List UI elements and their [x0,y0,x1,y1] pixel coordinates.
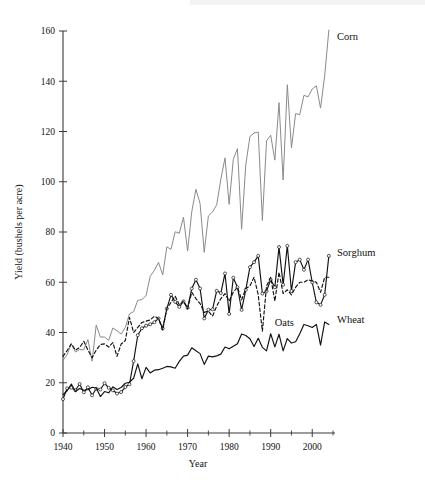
series-marker-sorghum [199,287,202,290]
y-tick-label: 60 [46,278,56,288]
series-marker-sorghum [257,254,260,257]
series-label-sorghum: Sorghum [337,247,375,258]
series-marker-sorghum [232,276,235,279]
series-marker-sorghum [86,386,89,389]
series-line-oats [63,272,329,357]
series-marker-sorghum [145,324,148,327]
series-marker-sorghum [307,258,310,261]
series-marker-sorghum [132,360,135,363]
series-label-corn: Corn [337,31,359,42]
series-marker-sorghum [78,383,81,386]
series-marker-sorghum [224,272,227,275]
y-tick-label: 40 [46,328,56,338]
axis-titles-layer: YearYield (bushels per acre) [13,184,208,469]
series-marker-sorghum [248,266,251,269]
y-tick-label: 120 [41,127,56,137]
series-marker-sorghum [294,261,297,264]
series-marker-sorghum [62,398,65,401]
series-marker-sorghum [219,292,222,295]
x-tick-label: 1980 [220,442,239,452]
series-marker-sorghum [298,258,301,261]
axes-layer: 0204060801001201401601940195019601970198… [41,26,335,452]
series-marker-sorghum [323,293,326,296]
series-marker-sorghum [120,391,123,394]
y-tick-label: 100 [41,177,56,187]
series-marker-sorghum [153,321,156,324]
series-marker-sorghum [124,386,127,389]
series-marker-sorghum [278,246,281,249]
x-axis-title: Year [189,458,208,469]
series-marker-sorghum [194,278,197,281]
series-marker-sorghum [203,317,206,320]
series-marker-sorghum [116,392,119,395]
series-marker-sorghum [140,327,143,330]
series-marker-sorghum [136,334,139,337]
x-tick-label: 1990 [261,442,280,452]
y-tick-label: 160 [41,26,56,36]
series-marker-sorghum [82,391,85,394]
series-marker-sorghum [228,312,231,315]
series-label-oats: Oats [275,317,294,328]
series-line-corn [63,30,329,361]
series-marker-sorghum [211,308,214,311]
y-axis-title: Yield (bushels per acre) [13,184,25,279]
y-tick-label: 140 [41,77,56,87]
series-marker-sorghum [261,292,264,295]
series-marker-sorghum [240,308,243,311]
series-marker-sorghum [107,386,110,389]
series-marker-sorghum [286,244,289,247]
yield-line-chart: 0204060801001201401601940195019601970198… [0,0,425,486]
y-tick-label: 20 [46,378,56,388]
series-marker-sorghum [149,323,152,326]
series-marker-sorghum [319,303,322,306]
x-tick-label: 1950 [95,442,114,452]
x-tick-label: 2000 [303,442,322,452]
series-label-wheat: Wheat [337,314,364,325]
series-layer [62,30,331,401]
series-marker-sorghum [215,289,218,292]
series-marker-sorghum [315,301,318,304]
series-marker-sorghum [99,388,102,391]
series-marker-sorghum [103,382,106,385]
x-tick-label: 1960 [137,442,156,452]
series-marker-sorghum [174,300,177,303]
series-marker-sorghum [91,394,94,397]
series-marker-sorghum [327,254,330,257]
x-tick-label: 1970 [178,442,197,452]
series-marker-sorghum [128,383,131,386]
chart-canvas: 0204060801001201401601940195019601970198… [0,0,425,486]
y-tick-label: 80 [46,227,56,237]
series-marker-sorghum [170,293,173,296]
series-marker-sorghum [178,305,181,308]
series-marker-sorghum [190,287,193,290]
y-tick-label: 0 [50,428,55,438]
series-marker-sorghum [273,286,276,289]
series-marker-sorghum [302,268,305,271]
series-marker-sorghum [253,261,256,264]
x-tick-label: 1940 [54,442,73,452]
series-marker-sorghum [207,308,210,311]
